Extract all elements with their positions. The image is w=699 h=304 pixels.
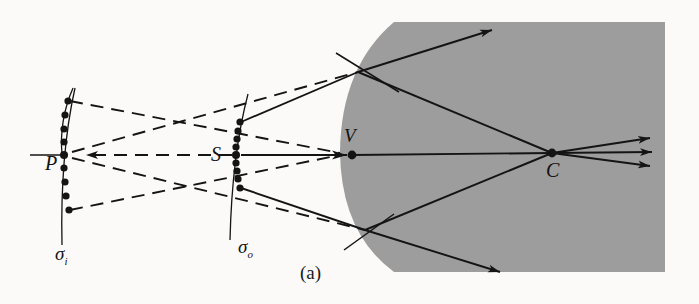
label-object-point-s: S bbox=[211, 144, 221, 164]
label-wavefront-sigma-o: σo bbox=[238, 237, 253, 260]
dense-medium-region bbox=[340, 22, 665, 272]
wavefront-sigma-o bbox=[230, 94, 248, 240]
diagram-canvas bbox=[0, 0, 699, 304]
sigma-i-subscript: i bbox=[64, 255, 67, 267]
figure-caption: (a) bbox=[300, 262, 321, 284]
center-of-curvature-point bbox=[548, 149, 557, 158]
label-vertex-v: V bbox=[344, 126, 356, 145]
label-center-of-curvature-c: C bbox=[546, 160, 559, 180]
label-image-point-p: P bbox=[45, 153, 57, 173]
optics-ray-diagram-figure: P S V C σi σo (a) bbox=[0, 0, 699, 304]
label-wavefront-sigma-i: σi bbox=[55, 244, 67, 267]
sigma-o-subscript: o bbox=[247, 248, 253, 260]
sigma-i-glyph: σ bbox=[55, 243, 64, 264]
sigma-o-glyph: σ bbox=[238, 236, 247, 257]
vertex-point bbox=[348, 151, 357, 160]
